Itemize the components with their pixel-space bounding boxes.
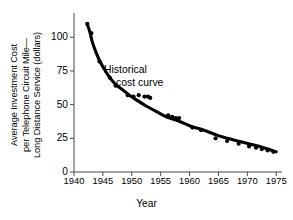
x-tick-label: 1955	[150, 176, 171, 186]
historical-cost-curve-annotation: Historical cost curve	[104, 64, 163, 89]
data-point-marker	[85, 22, 89, 26]
x-tick-label: 1945	[92, 176, 113, 186]
x-tick-label: 1965	[208, 176, 229, 186]
data-point-marker	[254, 146, 258, 150]
data-point-marker	[177, 116, 181, 120]
y-axis-tick-marks	[70, 37, 74, 172]
axis-lines	[74, 13, 282, 172]
data-point-marker	[237, 142, 241, 146]
data-point-marker	[271, 150, 275, 154]
data-point-marker	[131, 94, 135, 98]
data-point-marker	[265, 148, 269, 152]
x-axis-tick-labels: 19401945195019551960196519701975	[0, 176, 293, 190]
x-tick-label: 1940	[64, 176, 85, 186]
data-point-marker	[97, 59, 101, 63]
chart-figure: Average Investment Cost per Telephone Ci…	[0, 0, 293, 220]
data-point-marker	[166, 113, 170, 117]
annotation-line-2: cost curve	[104, 77, 163, 90]
data-point-marker	[126, 93, 130, 97]
data-point-marker	[137, 93, 141, 97]
data-point-marker	[148, 96, 152, 100]
data-point-marker	[89, 31, 93, 35]
data-point-marker	[213, 136, 217, 140]
x-tick-label: 1960	[179, 176, 200, 186]
x-axis-label: Year	[0, 198, 293, 209]
x-tick-label: 1950	[121, 176, 142, 186]
data-point-marker	[247, 144, 251, 148]
x-tick-label: 1975	[266, 176, 287, 186]
data-point-marker	[225, 139, 229, 143]
data-point-marker	[260, 147, 264, 151]
annotation-line-1: Historical	[104, 64, 163, 77]
data-point-marker	[199, 128, 203, 132]
x-tick-label: 1970	[237, 176, 258, 186]
data-point-marker	[190, 125, 194, 129]
